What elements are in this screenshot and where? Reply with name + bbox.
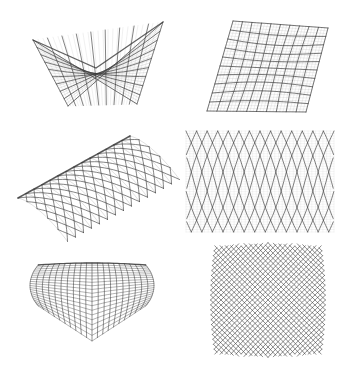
saddle-surface bbox=[33, 22, 163, 106]
plan-diagonal bbox=[319, 349, 322, 352]
saddle-fine-line bbox=[103, 30, 105, 105]
plan-diagonal bbox=[213, 339, 228, 354]
plan-diagonal bbox=[308, 246, 323, 261]
vault-arch bbox=[18, 198, 68, 242]
dome-grid-line bbox=[103, 263, 105, 334]
vault-arch bbox=[122, 140, 172, 184]
vault-arch bbox=[26, 194, 76, 238]
plan-diagonal bbox=[213, 246, 310, 345]
vault-arch bbox=[98, 154, 148, 198]
vault-diagonal bbox=[26, 194, 27, 202]
vault-arch bbox=[74, 167, 124, 211]
saddle-ruling bbox=[91, 32, 99, 105]
vault-ridge bbox=[18, 136, 130, 198]
dome-grid-line bbox=[80, 263, 82, 334]
vault-arch bbox=[34, 189, 84, 233]
dome-perspective-surface bbox=[30, 263, 154, 341]
plan-diagonal bbox=[319, 248, 322, 251]
vault-arch bbox=[50, 180, 100, 224]
vault-arch bbox=[58, 176, 108, 220]
skewed-plane-surface bbox=[207, 21, 328, 112]
plan-diagonal bbox=[213, 246, 228, 261]
plan-diagonal bbox=[308, 339, 323, 354]
vault-arch bbox=[130, 136, 180, 180]
plane-grid-line bbox=[207, 111, 306, 112]
plan-diagonal bbox=[225, 256, 322, 355]
gridshell-figure bbox=[0, 0, 349, 373]
dome-grid-line bbox=[73, 263, 76, 330]
vault-arch bbox=[90, 158, 140, 202]
vault-arch bbox=[114, 145, 164, 189]
barrel-vault-surface bbox=[18, 136, 180, 242]
plan-diagonal bbox=[213, 256, 310, 355]
flat-lattice-surface bbox=[186, 131, 334, 232]
vault-arch bbox=[82, 163, 132, 207]
saddle-ruling bbox=[105, 30, 106, 105]
vault-arch bbox=[42, 185, 92, 229]
vault-arch bbox=[106, 149, 156, 193]
vault-arch bbox=[66, 171, 116, 215]
vault-diagonal bbox=[34, 189, 37, 209]
dome-grid-line bbox=[108, 263, 111, 330]
plan-diagonal bbox=[225, 246, 322, 345]
dome-plan-surface bbox=[211, 243, 326, 358]
